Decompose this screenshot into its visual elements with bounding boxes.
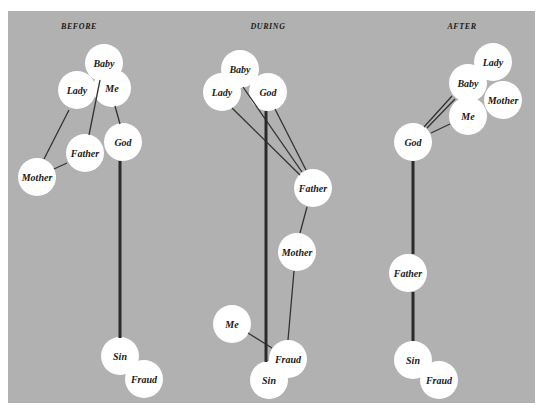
stage-title-after: AFTER (446, 22, 476, 31)
node-father: Father (389, 254, 427, 292)
node-label: Sin (406, 355, 420, 366)
node-mother: Mother (484, 81, 522, 119)
node-label: Baby (228, 64, 251, 75)
node-label: God (259, 87, 277, 98)
node-label: Me (460, 111, 475, 122)
node-label: Lady (211, 87, 233, 98)
node-label: Me (224, 319, 239, 330)
node-label: Baby (456, 78, 479, 89)
node-baby: Baby (221, 50, 259, 88)
stage-after: AFTER LadyMotherMeBabyGodFatherSinFraud (389, 22, 522, 399)
stage-title-before: BEFORE (60, 22, 97, 31)
node-label: Mother (487, 95, 519, 106)
nodes-before: LadyMeBabyGodFatherMotherSinFraud (18, 44, 163, 398)
network-diagram: BEFORE LadyMeBabyGodFatherMotherSinFraud… (0, 0, 541, 414)
node-baby: Baby (85, 44, 123, 82)
node-mother: Mother (18, 158, 56, 196)
node-label: Mother (281, 247, 313, 258)
edge (248, 333, 272, 348)
node-fraud: Fraud (269, 340, 307, 378)
node-label: Lady (482, 57, 504, 68)
edge (288, 271, 294, 340)
node-god: God (394, 123, 432, 161)
node-father: Father (66, 134, 104, 172)
node-label: Father (298, 183, 327, 194)
node-label: Father (70, 148, 99, 159)
node-fraud: Fraud (125, 360, 163, 398)
edge (424, 96, 452, 127)
edge (54, 163, 67, 169)
node-label: Fraud (425, 375, 453, 386)
stage-title-during: DURING (249, 22, 285, 31)
edges-before (44, 80, 120, 338)
node-label: Sin (262, 375, 276, 386)
node-me: Me (449, 97, 487, 135)
node-label: Sin (113, 351, 127, 362)
node-label: Me (104, 83, 119, 94)
node-baby: Baby (449, 64, 487, 102)
node-lady: Lady (58, 71, 96, 109)
stage-before: BEFORE LadyMeBabyGodFatherMotherSinFraud (18, 22, 163, 398)
stage-during: DURING LadyGodBabyFatherMotherMeSinFraud (203, 22, 332, 399)
node-label: Mother (21, 172, 53, 183)
node-fraud: Fraud (420, 361, 458, 399)
edge (431, 124, 450, 133)
node-label: Fraud (274, 354, 302, 365)
node-label: Fraud (130, 374, 158, 385)
edge (115, 106, 120, 124)
edge (300, 207, 307, 233)
node-label: God (114, 137, 132, 148)
node-me: Me (213, 305, 251, 343)
node-label: Baby (92, 58, 115, 69)
node-god: God (104, 123, 142, 161)
node-label: Lady (66, 85, 88, 96)
edge (44, 110, 69, 159)
node-label: God (404, 137, 422, 148)
node-label: Father (393, 268, 422, 279)
node-mother: Mother (278, 233, 316, 271)
nodes-after: LadyMotherMeBabyGodFatherSinFraud (389, 43, 522, 399)
